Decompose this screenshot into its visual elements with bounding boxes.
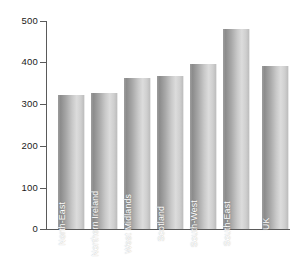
y-tick-mark-200: [40, 146, 46, 147]
bar-northern-ireland: Northern Ireland: [91, 93, 118, 229]
bar-west-midlands: West Midlands: [124, 78, 151, 229]
y-tick-label-100: 100: [0, 183, 38, 193]
y-tick-label-500: 500: [0, 16, 38, 26]
y-tick-mark-400: [40, 62, 46, 63]
y-tick-label-200: 200: [0, 141, 38, 151]
bar-south-east: South-East: [223, 29, 250, 229]
bar-south-west: South-West: [190, 64, 217, 229]
bar-label-south-west: South-West: [194, 200, 203, 247]
y-tick-label-400: 400: [0, 57, 38, 67]
y-tick-mark-0: [40, 229, 46, 230]
bar-label-south-east: South-East: [227, 202, 236, 247]
bar-label-scotland: Scotland: [161, 206, 170, 241]
bar-label-northern-ireland: Northern Ireland: [95, 191, 104, 257]
bar-uk: UK: [262, 66, 289, 229]
y-axis-line: [46, 21, 47, 230]
y-tick-label-300: 300: [0, 99, 38, 109]
y-tick-mark-100: [40, 188, 46, 189]
y-tick-label-0: 0: [0, 224, 38, 234]
y-tick-mark-500: [40, 21, 46, 22]
bar-label-north-east: North-East: [62, 202, 71, 246]
bar-label-uk: UK: [266, 218, 275, 230]
y-tick-mark-300: [40, 104, 46, 105]
bar-north-east: North-East: [58, 95, 85, 229]
bar-label-west-midlands: West Midlands: [128, 194, 137, 253]
bar-scotland: Scotland: [157, 76, 184, 229]
